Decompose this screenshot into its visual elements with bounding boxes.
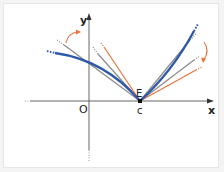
y-axis-label: y bbox=[80, 15, 87, 26]
point-e-marker bbox=[138, 99, 142, 103]
c-label: c bbox=[137, 106, 143, 116]
point-e-label: E bbox=[136, 89, 142, 99]
curved-arrow-right-icon bbox=[204, 42, 207, 60]
x-axis-label: x bbox=[208, 105, 215, 116]
x-arrow-icon bbox=[207, 99, 214, 104]
y-arrow-icon bbox=[87, 13, 92, 20]
diagram-canvas bbox=[0, 0, 224, 172]
origin-label: O bbox=[79, 104, 88, 115]
x-axis bbox=[25, 99, 214, 104]
y-axis bbox=[87, 13, 92, 162]
secant-lines bbox=[57, 34, 200, 101]
